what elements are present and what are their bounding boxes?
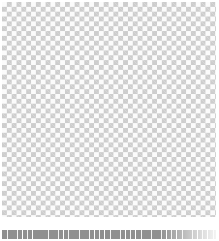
checkerboard-footer-strip [2, 230, 216, 239]
pattern-canvas [0, 0, 219, 241]
checkerboard-main [2, 2, 216, 217]
margin-right [216, 0, 219, 241]
white-separator-band [0, 217, 219, 230]
